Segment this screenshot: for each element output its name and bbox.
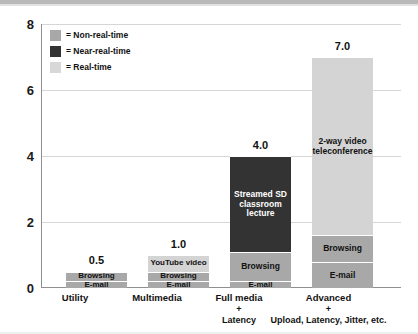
legend-swatch-non-real-time-icon: [50, 30, 61, 41]
bar-segment-full-media-browsing[interactable]: Browsing: [230, 252, 291, 282]
bar-segment-multimedia-email[interactable]: E-mail: [148, 281, 209, 288]
bar-total-multimedia: 1.0: [148, 238, 209, 250]
legend-label-non-real-time: = Non-real-time: [66, 30, 128, 40]
bar-segment-multimedia-youtube[interactable]: YouTube video: [148, 255, 209, 272]
bar-total-full-media: 4.0: [230, 139, 291, 151]
bar-segment-advanced-teleconference[interactable]: 2-way video teleconference: [312, 57, 373, 235]
y-tick-2: 2: [8, 215, 34, 230]
legend-swatch-real-time-icon: [50, 62, 61, 73]
y-tick-4: 4: [8, 149, 34, 164]
x-label-utility-line1: Utility: [62, 292, 88, 303]
legend-item-real-time[interactable]: = Real-time: [50, 60, 170, 74]
legend-swatch-near-real-time-icon: [50, 46, 61, 57]
bar-utility[interactable]: Browsing E-mail: [66, 272, 127, 289]
bar-segment-full-media-lecture[interactable]: Streamed SD classroom lecture: [230, 156, 291, 252]
gridline-8: [42, 24, 401, 25]
x-label-advanced-line3: Upload, Latency, Jitter, etc.: [241, 315, 416, 326]
x-label-advanced: Advanced + Upload, Latency, Jitter, etc.: [241, 292, 416, 326]
legend-label-near-real-time: = Near-real-time: [66, 46, 131, 56]
x-label-advanced-line1: Advanced: [306, 292, 351, 303]
bar-segment-full-media-email[interactable]: E-mail: [230, 281, 291, 288]
bar-full-media[interactable]: Streamed SD classroom lecture Browsing E…: [230, 156, 291, 288]
stacked-bar-chart: 8 6 4 2 0 Browsing E-mail 0.5 YouTube vi…: [0, 0, 418, 334]
bar-segment-advanced-browsing[interactable]: Browsing: [312, 235, 373, 261]
bar-segment-multimedia-browsing[interactable]: Browsing: [148, 272, 209, 282]
y-tick-0: 0: [8, 281, 34, 296]
x-label-multimedia-line1: Multimedia: [132, 292, 182, 303]
bar-total-advanced: 7.0: [312, 40, 373, 52]
bar-segment-advanced-email[interactable]: E-mail: [312, 262, 373, 288]
x-label-advanced-line2: +: [241, 304, 416, 315]
y-tick-8: 8: [8, 17, 34, 32]
bar-segment-utility-email[interactable]: E-mail: [66, 281, 127, 288]
bar-advanced[interactable]: 2-way video teleconference Browsing E-ma…: [312, 57, 373, 288]
bar-total-utility: 0.5: [66, 254, 127, 266]
x-label-utility: Utility: [35, 292, 115, 304]
legend-item-non-real-time[interactable]: = Non-real-time: [50, 28, 170, 42]
legend-label-real-time: = Real-time: [66, 62, 112, 72]
chart-legend: = Non-real-time = Near-real-time = Real-…: [50, 28, 170, 76]
bar-multimedia[interactable]: YouTube video Browsing E-mail: [148, 255, 209, 288]
x-label-multimedia: Multimedia: [117, 292, 197, 304]
legend-item-near-real-time[interactable]: = Near-real-time: [50, 44, 170, 58]
y-tick-6: 6: [8, 83, 34, 98]
bar-segment-utility-browsing[interactable]: Browsing: [66, 272, 127, 282]
